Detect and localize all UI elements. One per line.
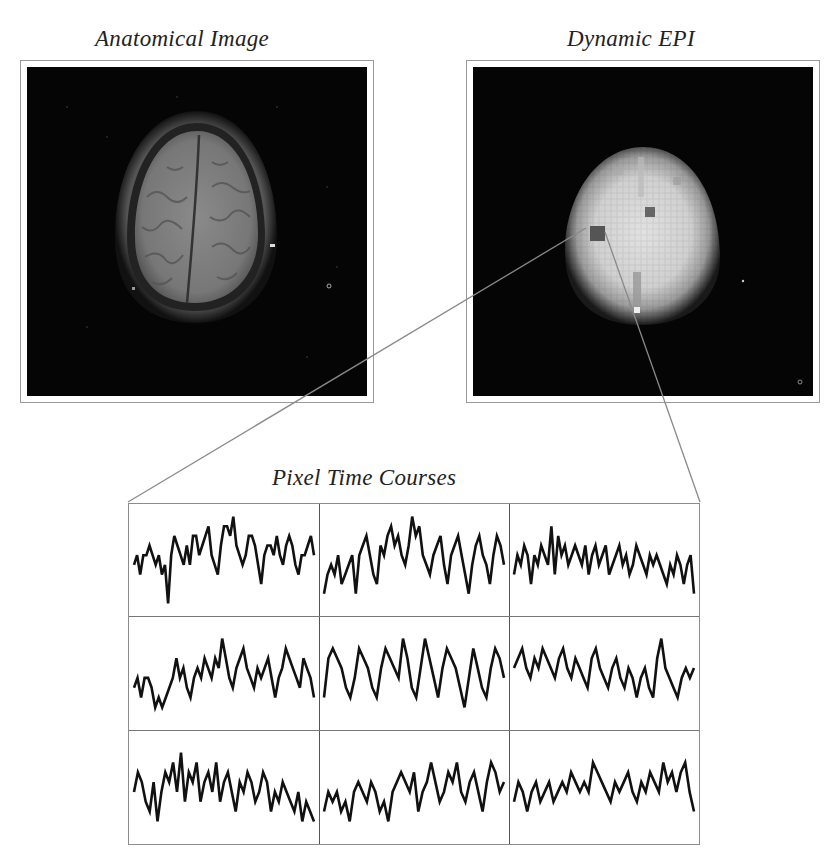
anatomical-image-title: Anatomical Image xyxy=(95,26,269,52)
time-course-plot xyxy=(509,616,699,730)
time-course-trace xyxy=(134,753,314,822)
time-course-plot xyxy=(129,504,319,616)
time-course-plot xyxy=(319,616,509,730)
time-course-plot xyxy=(509,730,699,844)
grid-divider-vertical xyxy=(319,504,320,844)
grid-divider-horizontal xyxy=(129,616,699,617)
time-course-trace xyxy=(324,763,504,822)
pixel-time-courses-grid xyxy=(128,503,700,845)
time-course-trace xyxy=(514,526,694,593)
time-course-plot xyxy=(129,616,319,730)
time-course-plot xyxy=(319,730,509,844)
dynamic-epi-title: Dynamic EPI xyxy=(567,26,695,52)
grid-divider-horizontal xyxy=(129,730,699,731)
anatomical-mri-image xyxy=(27,67,367,396)
anatomical-image-frame xyxy=(20,60,374,403)
dynamic-epi-image xyxy=(473,67,813,396)
time-course-trace xyxy=(324,639,504,708)
time-course-trace xyxy=(514,763,694,812)
dynamic-epi-frame xyxy=(466,60,820,403)
time-course-trace xyxy=(514,639,694,698)
pixel-time-courses-title: Pixel Time Courses xyxy=(272,465,456,491)
time-course-plot xyxy=(509,504,699,616)
grid-divider-vertical xyxy=(509,504,510,844)
time-course-plot xyxy=(129,730,319,844)
selected-voxel xyxy=(590,226,605,241)
time-course-plot xyxy=(319,504,509,616)
time-course-trace xyxy=(134,517,314,604)
time-course-trace xyxy=(324,517,504,594)
time-course-trace xyxy=(134,639,314,708)
